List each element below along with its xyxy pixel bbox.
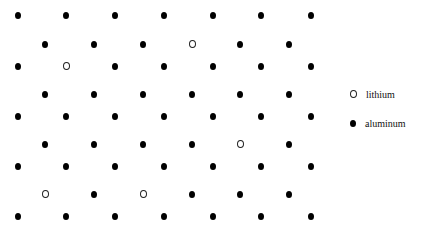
aluminum-atom-icon — [91, 191, 97, 198]
aluminum-atom-icon — [15, 113, 21, 120]
lithium-atom-icon — [189, 40, 196, 48]
lithium-atom-icon — [140, 190, 147, 198]
aluminum-atom-icon — [91, 41, 97, 48]
aluminum-atom-icon — [161, 163, 167, 170]
aluminum-filled-circle-icon — [350, 120, 356, 127]
aluminum-atom-icon — [42, 91, 48, 98]
aluminum-atom-icon — [161, 113, 167, 120]
aluminum-atom-icon — [112, 113, 118, 120]
aluminum-atom-icon — [140, 91, 146, 98]
aluminum-atom-icon — [140, 141, 146, 148]
aluminum-atom-icon — [286, 91, 292, 98]
aluminum-atom-icon — [210, 213, 216, 220]
aluminum-atom-icon — [91, 91, 97, 98]
aluminum-atom-icon — [258, 213, 264, 220]
lithium-atom-icon — [63, 62, 70, 70]
aluminum-atom-icon — [91, 141, 97, 148]
aluminum-atom-icon — [258, 163, 264, 170]
aluminum-atom-icon — [112, 63, 118, 70]
aluminum-atom-icon — [286, 141, 292, 148]
aluminum-atom-icon — [308, 113, 314, 120]
aluminum-atom-icon — [308, 213, 314, 220]
aluminum-atom-icon — [210, 163, 216, 170]
aluminum-atom-icon — [112, 213, 118, 220]
aluminum-atom-icon — [308, 63, 314, 70]
aluminum-atom-icon — [15, 163, 21, 170]
aluminum-atom-icon — [42, 41, 48, 48]
lithium-atom-icon — [42, 190, 49, 198]
lithium-atom-icon — [237, 140, 244, 148]
aluminum-atom-icon — [210, 12, 216, 19]
legend: lithium aluminum — [350, 86, 422, 134]
aluminum-atom-icon — [15, 213, 21, 220]
legend-item-lithium: lithium — [350, 86, 395, 102]
aluminum-atom-icon — [63, 163, 69, 170]
aluminum-atom-icon — [237, 191, 243, 198]
aluminum-atom-icon — [63, 12, 69, 19]
aluminum-atom-icon — [42, 141, 48, 148]
aluminum-atom-icon — [63, 213, 69, 220]
aluminum-atom-icon — [308, 163, 314, 170]
lithium-open-circle-icon — [350, 90, 357, 98]
aluminum-atom-icon — [63, 113, 69, 120]
aluminum-atom-icon — [258, 12, 264, 19]
aluminum-atom-icon — [140, 41, 146, 48]
aluminum-atom-icon — [210, 113, 216, 120]
aluminum-atom-icon — [189, 191, 195, 198]
aluminum-atom-icon — [286, 191, 292, 198]
aluminum-atom-icon — [112, 12, 118, 19]
aluminum-atom-icon — [161, 12, 167, 19]
aluminum-atom-icon — [161, 63, 167, 70]
aluminum-atom-icon — [258, 113, 264, 120]
aluminum-atom-icon — [237, 91, 243, 98]
aluminum-atom-icon — [258, 63, 264, 70]
legend-item-aluminum: aluminum — [350, 115, 406, 131]
aluminum-atom-icon — [15, 12, 21, 19]
aluminum-atom-icon — [189, 91, 195, 98]
aluminum-atom-icon — [286, 41, 292, 48]
aluminum-atom-icon — [161, 213, 167, 220]
legend-label-lithium: lithium — [366, 89, 395, 100]
aluminum-atom-icon — [189, 141, 195, 148]
aluminum-atom-icon — [112, 163, 118, 170]
aluminum-atom-icon — [15, 63, 21, 70]
legend-label-aluminum: aluminum — [365, 118, 406, 129]
aluminum-atom-icon — [308, 12, 314, 19]
aluminum-atom-icon — [210, 63, 216, 70]
aluminum-atom-icon — [237, 41, 243, 48]
